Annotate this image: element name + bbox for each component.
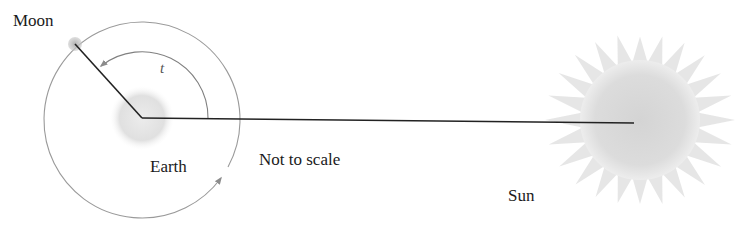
not-to-scale-label: Not to scale <box>259 151 340 168</box>
diagram-canvas <box>0 0 746 231</box>
earth-moon-line <box>75 44 142 118</box>
earth-label: Earth <box>150 158 187 175</box>
angle-label-t: t <box>160 61 164 76</box>
sun <box>545 36 735 205</box>
moon-label: Moon <box>13 12 54 29</box>
sun-body <box>580 60 700 180</box>
sun-label: Sun <box>508 187 534 204</box>
